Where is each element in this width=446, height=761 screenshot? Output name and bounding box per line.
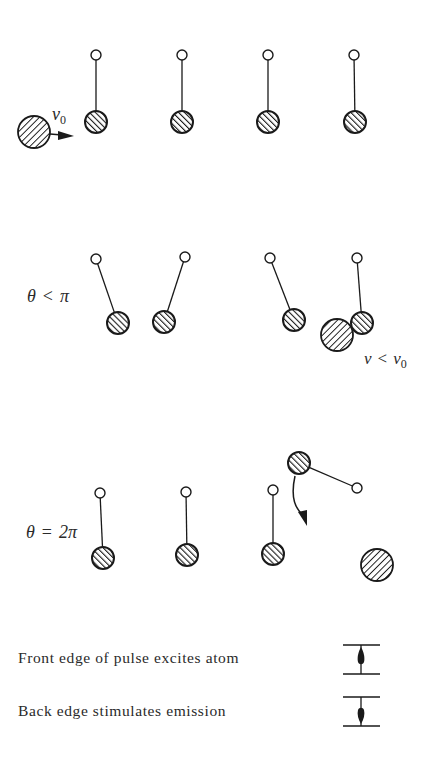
pendulum-1: [91, 254, 129, 334]
hatched-bob-icon: [257, 111, 279, 133]
pendulum-4: [351, 253, 373, 334]
outgoing-atom-icon: [361, 549, 393, 581]
pivot-circle-icon: [95, 488, 105, 498]
row-initial: [18, 50, 366, 148]
hatched-bob-icon: [283, 309, 305, 331]
hatched-bob-icon: [262, 543, 284, 565]
pendulum-rod: [309, 467, 352, 486]
speed-less-than-v0-label: v<v0: [364, 349, 407, 371]
pendulum-rod: [357, 263, 361, 312]
pivot-circle-icon: [268, 485, 278, 495]
pendulum-analogy-diagram: v0 θ<π v<v0 θ=2π Front edge of pulse exc…: [0, 0, 446, 761]
hatched-bob-icon: [351, 312, 373, 334]
theta-equals-2pi-label: θ=2π: [26, 522, 78, 542]
pendulum-2: [153, 252, 190, 333]
pendulum-rod: [354, 60, 355, 111]
velocity-label-v0: v0: [52, 104, 66, 127]
velocity-arrow-icon: [58, 131, 74, 140]
pendulum-1: [85, 50, 107, 133]
hatched-bob-icon: [153, 311, 175, 333]
legend-back-edge-text: Back edge stimulates emission: [18, 702, 226, 720]
pulse-back-edge-icon: [343, 697, 380, 726]
pendulum-rod: [98, 264, 115, 313]
slowed-atom-icon: [321, 319, 353, 351]
pivot-circle-icon: [91, 254, 101, 264]
pivot-circle-icon: [265, 253, 275, 263]
pivot-circle-icon: [352, 483, 362, 493]
pendulum-4: [344, 50, 366, 133]
pendulum-1: [92, 488, 114, 569]
pendulum-2: [176, 487, 198, 566]
hatched-bob-icon: [176, 544, 198, 566]
diagram-canvas: v0 θ<π v<v0 θ=2π: [0, 0, 446, 761]
pendulum-rod: [167, 262, 183, 312]
hatched-bob-icon: [171, 111, 193, 133]
row-theta-2pi: [92, 452, 393, 581]
pendulum-3: [265, 253, 305, 331]
pivot-circle-icon: [352, 253, 362, 263]
pendulum-3: [257, 50, 279, 133]
pivot-circle-icon: [181, 487, 191, 497]
row-theta-lt-pi: [91, 252, 373, 351]
pivot-circle-icon: [177, 50, 187, 60]
pivot-circle-icon: [180, 252, 190, 262]
pendulum-rod: [186, 497, 187, 544]
pivot-circle-icon: [349, 50, 359, 60]
hatched-bob-icon: [92, 547, 114, 569]
hatched-bob-icon: [344, 111, 366, 133]
pivot-circle-icon: [91, 50, 101, 60]
pendulum-rod: [272, 263, 290, 310]
theta-less-than-pi-label: θ<π: [27, 286, 70, 306]
pulse-front-edge-icon: [343, 645, 380, 674]
pivot-circle-icon: [263, 50, 273, 60]
incoming-atom-icon: [18, 116, 50, 148]
swing-arrow-icon: [298, 510, 307, 526]
pendulum-4: [288, 452, 362, 493]
pendulum-3: [262, 485, 284, 565]
swing-arrow-shaft: [293, 476, 302, 514]
hatched-bob-icon: [288, 452, 310, 474]
pendulum-rod: [100, 498, 102, 547]
hatched-bob-icon: [85, 111, 107, 133]
pendulum-2: [171, 50, 193, 133]
legend-front-edge-text: Front edge of pulse excites atom: [18, 649, 239, 667]
hatched-bob-icon: [107, 312, 129, 334]
